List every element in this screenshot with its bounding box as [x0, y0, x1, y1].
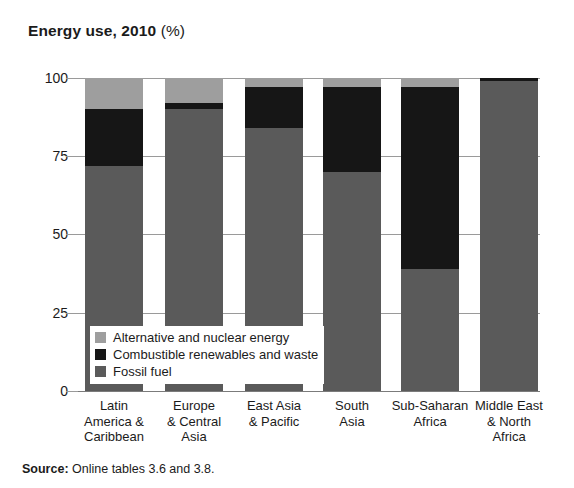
- page-title: Energy use, 2010 (%): [28, 22, 185, 40]
- bar-segment-combustible[interactable]: [401, 87, 459, 269]
- gridline-75: [78, 156, 540, 157]
- bar-middle-east-north-africa[interactable]: [480, 78, 538, 391]
- axis-baseline: [78, 391, 540, 392]
- legend-item-combustible[interactable]: Combustible renewables and waste: [95, 346, 318, 363]
- bar-segment-combustible[interactable]: [323, 87, 381, 172]
- bar-segment-combustible[interactable]: [245, 87, 303, 128]
- x-label-line: Africa: [461, 429, 557, 445]
- bar-segment-alternative[interactable]: [85, 78, 143, 109]
- y-tick-label-75: 75: [22, 148, 68, 164]
- gridline-50: [78, 234, 540, 235]
- legend-swatch-combustible-icon: [95, 349, 106, 360]
- y-tick-label-25: 25: [22, 305, 68, 321]
- chart-title-text: Energy use, 2010: [28, 22, 156, 39]
- source-note: Source: Online tables 3.6 and 3.8.: [22, 462, 214, 476]
- source-text: Online tables 3.6 and 3.8.: [69, 462, 215, 476]
- y-tick-mark-100: [66, 78, 78, 79]
- y-tick-mark-25: [66, 313, 78, 314]
- x-axis-label-middle-east-north-africa: Middle East & North Africa: [461, 398, 557, 445]
- y-tick-label-0: 0: [22, 383, 68, 399]
- bar-segment-combustible[interactable]: [480, 78, 538, 81]
- bar-sub-saharan-africa[interactable]: [401, 78, 459, 391]
- bar-segment-alternative[interactable]: [245, 78, 303, 87]
- y-tick-mark-0: [66, 391, 78, 392]
- bar-south-asia[interactable]: [323, 78, 381, 391]
- x-label-line: & North: [461, 414, 557, 430]
- legend-swatch-alternative-icon: [95, 332, 106, 343]
- bar-segment-alternative[interactable]: [401, 78, 459, 87]
- x-label-line: Asia: [146, 429, 242, 445]
- bar-segment-combustible[interactable]: [85, 109, 143, 165]
- x-label-line: Middle East: [461, 398, 557, 414]
- y-tick-label-50: 50: [22, 226, 68, 242]
- bar-segment-alternative[interactable]: [165, 78, 223, 103]
- gridline-100: [78, 78, 540, 79]
- legend-label-alternative: Alternative and nuclear energy: [113, 331, 289, 345]
- bar-segment-alternative[interactable]: [323, 78, 381, 87]
- legend-item-fossil-fuel[interactable]: Fossil fuel: [95, 363, 318, 380]
- legend-swatch-fossil-fuel-icon: [95, 366, 106, 377]
- source-label: Source:: [22, 462, 69, 476]
- bar-segment-fossil-fuel[interactable]: [480, 81, 538, 391]
- bar-segment-combustible[interactable]: [165, 103, 223, 109]
- chart-legend: Alternative and nuclear energy Combustib…: [90, 326, 324, 384]
- y-tick-mark-50: [66, 234, 78, 235]
- chart-title-unit: (%): [161, 22, 185, 39]
- bar-segment-fossil-fuel[interactable]: [401, 269, 459, 391]
- legend-item-alternative[interactable]: Alternative and nuclear energy: [95, 329, 318, 346]
- y-tick-mark-75: [66, 156, 78, 157]
- gridline-25: [78, 313, 540, 314]
- bar-segment-fossil-fuel[interactable]: [323, 172, 381, 391]
- y-tick-label-100: 100: [22, 70, 68, 86]
- legend-label-combustible: Combustible renewables and waste: [113, 348, 318, 362]
- legend-label-fossil-fuel: Fossil fuel: [113, 365, 172, 379]
